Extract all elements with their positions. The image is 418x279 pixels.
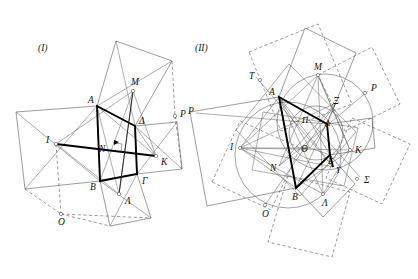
label-Rho-left-fig2: Ρ (187, 106, 194, 116)
square-on-DG (135, 122, 182, 174)
label-B-fig1: Β (90, 182, 96, 192)
label-Xi-fig2: Ξ (333, 96, 340, 106)
point-marker-I-fig1 (54, 142, 57, 145)
point-marker-I-fig2 (238, 146, 241, 149)
label-M-fig1: Μ (130, 77, 140, 87)
label-N-fig2: Ν (269, 163, 277, 173)
point-marker-Sigma-fig2 (355, 177, 358, 180)
figure-page: (I) Α Β Γ Δ Μ Κ Λ Ι Ν Ο Ρ (0, 0, 418, 279)
point-marker-L-fig1 (117, 192, 120, 195)
point-marker-K-fig2 (348, 148, 351, 151)
figure-2-caption: (II) (195, 43, 208, 54)
label-O-fig1: Ο (58, 217, 65, 227)
label-Theta-fig2: Θ (301, 144, 308, 154)
segment-IK-fig1 (56, 144, 156, 156)
direction-arrow-fig1 (114, 140, 119, 145)
interior-rays (56, 91, 156, 194)
figure-1-caption: (I) (38, 43, 48, 54)
label-K-fig1: Κ (160, 157, 168, 167)
label-I-fig1: Ι (45, 135, 50, 145)
label-Pi-fig2: Π (301, 115, 309, 125)
label-O-fig2: Ο (262, 209, 269, 219)
outer-dashed-squares (212, 24, 410, 257)
point-marker-P-fig2 (363, 91, 366, 94)
point-marker-O-fig2 (263, 203, 266, 206)
label-B-fig2: Β (292, 192, 298, 202)
point-marker-T-fig2 (258, 78, 261, 81)
figure-2-group: (II) Α Β Γ Δ Μ Κ Λ Ι Θ Ν Π Ξ Υ Τ Ρ Σ Ρ Ο (187, 24, 410, 257)
label-Lambda-fig2: Λ (321, 198, 328, 208)
point-marker-P-fig1 (173, 114, 176, 117)
label-Delta-fig1: Δ (138, 116, 145, 126)
label-P-fig1: Ρ (179, 109, 186, 119)
label-Delta-fig2: Δ (324, 118, 330, 128)
label-M-fig2: Μ (313, 62, 323, 72)
inner-squares-fig2 (190, 28, 375, 217)
label-A-fig2: Α (268, 87, 275, 97)
centre-squares-fig2 (236, 64, 358, 196)
point-marker-Lambda-fig2 (321, 192, 324, 195)
label-K-fig2: Κ (354, 145, 362, 155)
label-I-fig2: Ι (229, 142, 234, 152)
label-Sigma-fig2: Σ (363, 175, 370, 185)
label-T-fig2: Τ (249, 71, 255, 81)
geometry-diagram: (I) Α Β Γ Δ Μ Κ Λ Ι Ν Ο Ρ (0, 0, 418, 279)
label-A-fig1: Α (87, 95, 94, 105)
point-marker-M-fig1 (131, 89, 134, 92)
label-Lambda-fig1: Λ (124, 196, 131, 206)
label-N-fig1: Ν (98, 144, 106, 154)
segment-ML-fig1 (119, 91, 133, 194)
point-marker-M-fig2 (316, 73, 319, 76)
label-Gamma-fig1: Γ (141, 176, 148, 186)
label-Upsilon-fig2: Υ (336, 165, 342, 175)
figure-1-group: (I) Α Β Γ Δ Μ Κ Λ Ι Ν Ο Ρ (16, 41, 186, 227)
point-marker-K-fig1 (154, 154, 157, 157)
point-marker-O-fig1 (59, 212, 62, 215)
label-Rho-right-fig2: Ρ (370, 83, 377, 93)
